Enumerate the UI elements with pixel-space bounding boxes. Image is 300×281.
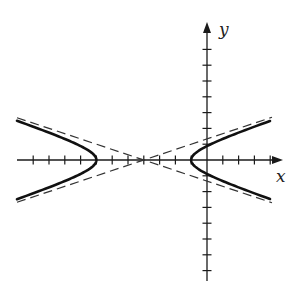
hyperbola-plot: x y: [0, 0, 300, 281]
y-axis-arrow-icon: [203, 22, 211, 33]
x-axis: [17, 156, 283, 165]
x-axis-arrow-icon: [272, 156, 283, 164]
y-axis-label: y: [218, 19, 229, 39]
y-axis: [203, 22, 212, 281]
x-axis-label: x: [276, 166, 286, 186]
